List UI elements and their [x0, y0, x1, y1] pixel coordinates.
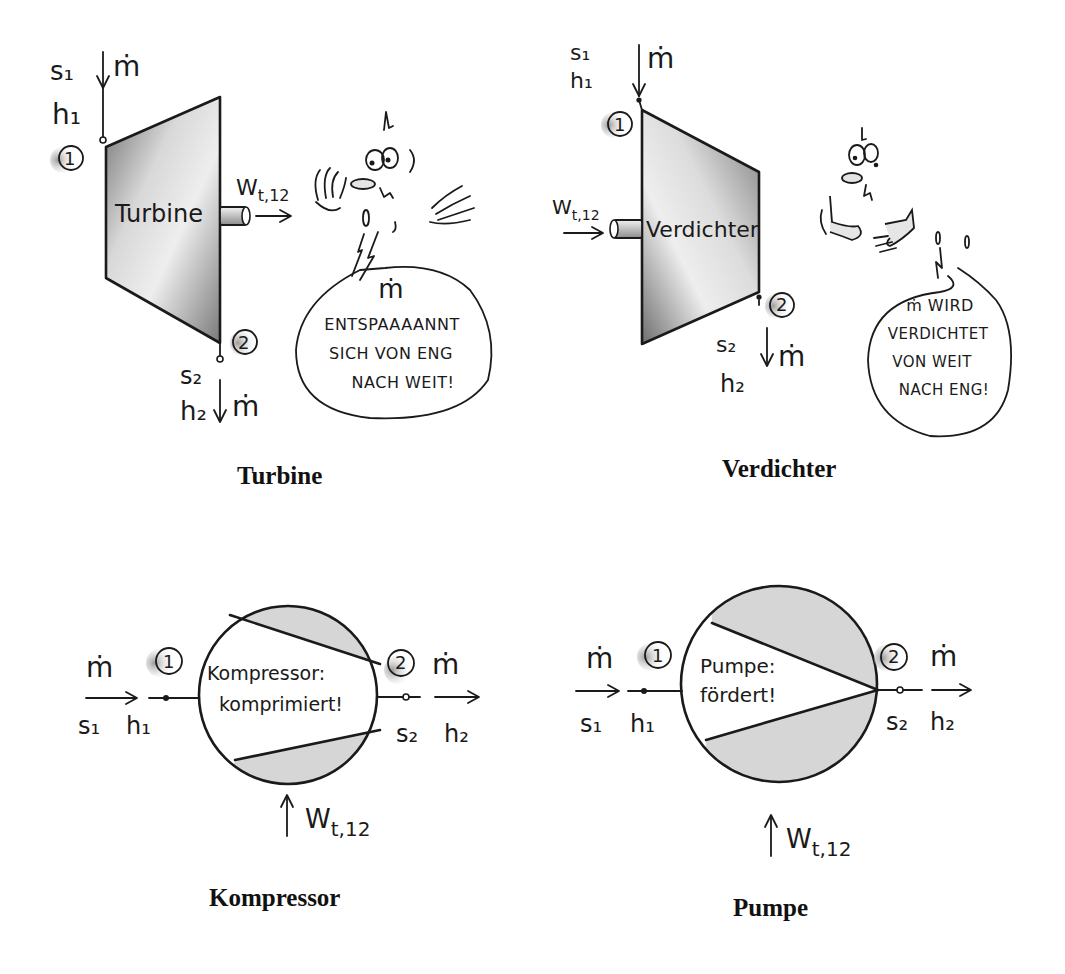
pumpe-inlet-enthalpy: h₁ — [630, 710, 655, 738]
verdichter-inlet-enthalpy: h₁ — [570, 68, 593, 93]
turbine-inlet-mass-flow: ṁ — [113, 50, 140, 83]
turbine-outlet-enthalpy: h₂ — [180, 396, 207, 426]
verdichter-inlet-entropy: s₁ — [570, 40, 590, 65]
verdichter-state-1-label: 1 — [614, 114, 625, 135]
turbine-outlet-arrow — [214, 343, 226, 422]
turbine-inlet-arrow — [97, 52, 109, 143]
kompressor-body-label-line-1: Kompressor: — [207, 662, 325, 684]
kompressor-outlet-entropy: s₂ — [396, 720, 418, 748]
kompressor-outlet-mass-flow: ṁ — [432, 648, 459, 681]
pumpe-caption: Pumpe — [733, 894, 808, 922]
verdichter-inlet-arrow — [633, 45, 645, 110]
kompressor-inlet-enthalpy: h₁ — [126, 712, 151, 740]
verdichter-caption: Verdichter — [722, 455, 836, 483]
verdichter-panel: s₁ h₁ ṁ 1 2 s₂ h₂ ṁ Verdichter Wt,12 ṁ W… — [530, 0, 1065, 500]
turbine-body-label: Turbine — [114, 200, 203, 228]
kompressor-outlet-arrow — [377, 691, 479, 703]
pumpe-outlet-mass-flow: ṁ — [930, 640, 957, 673]
pumpe-state-2-label: 2 — [888, 646, 899, 667]
verdichter-diagram: s₁ h₁ ṁ 1 2 s₂ h₂ ṁ Verdichter Wt,12 ṁ W… — [530, 0, 1065, 500]
kompressor-inlet-mass-flow: ṁ — [86, 651, 113, 684]
turbine-outlet-mass-flow: ṁ — [232, 390, 259, 423]
pumpe-state-1-label: 1 — [652, 645, 663, 666]
verdichter-inlet-mass-flow: ṁ — [647, 42, 674, 75]
turbine-cartoon-figure — [315, 112, 474, 280]
pumpe-inlet-mass-flow: ṁ — [586, 642, 613, 675]
pumpe-work-label: Wt,12 — [786, 824, 851, 861]
verdichter-outlet-entropy: s₂ — [716, 332, 736, 357]
verdichter-body-label: Verdichter — [646, 217, 760, 242]
verdichter-bubble-line-2: VERDICHTET — [888, 325, 989, 343]
kompressor-panel: ṁ 1 s₁ h₁ 2 ṁ s₂ h₂ Kompressor: komprimi… — [0, 560, 530, 974]
turbine-bubble-line-2: ENTSPAAAANNT — [324, 315, 459, 334]
verdichter-work-label: Wt,12 — [552, 195, 600, 223]
verdichter-state-2-label: 2 — [776, 294, 787, 315]
verdichter-cartoon-figure — [821, 128, 969, 278]
verdichter-bubble-line-4: NACH ENG! — [899, 381, 990, 399]
kompressor-inlet-entropy: s₁ — [78, 712, 100, 740]
kompressor-inlet-arrow — [86, 692, 199, 704]
kompressor-caption: Kompressor — [209, 884, 340, 912]
turbine-outlet-entropy: s₂ — [180, 362, 202, 390]
verdichter-bubble-line-1: ṁ WIRD — [906, 296, 974, 315]
turbine-panel: s₁ h₁ ṁ 1 2 s₂ h₂ ṁ Turbine Wt,12 ṁ ENTS… — [0, 0, 530, 500]
pumpe-inlet-entropy: s₁ — [580, 710, 602, 738]
turbine-inlet-entropy: s₁ — [50, 56, 74, 86]
kompressor-state-2-label: 2 — [395, 652, 406, 673]
kompressor-outlet-enthalpy: h₂ — [444, 720, 469, 748]
turbine-work-label: Wt,12 — [236, 175, 289, 205]
pumpe-outlet-entropy: s₂ — [886, 708, 908, 736]
turbine-caption: Turbine — [237, 462, 322, 490]
turbine-inlet-enthalpy: h₁ — [52, 98, 81, 131]
turbine-state-1-label: 1 — [64, 148, 75, 169]
pumpe-outlet-enthalpy: h₂ — [930, 708, 955, 736]
verdichter-bubble-line-3: VON WEIT — [892, 353, 972, 371]
pumpe-inlet-arrow — [576, 685, 682, 697]
pumpe-body-label-line-2: fördert! — [700, 683, 776, 707]
pumpe-body-label-line-1: Pumpe: — [700, 654, 776, 678]
turbine-bubble-line-3: SICH VON ENG — [329, 344, 453, 363]
kompressor-work-arrow — [281, 795, 293, 836]
turbine-bubble-line-4: NACH WEIT! — [352, 373, 455, 392]
kompressor-work-label: Wt,12 — [305, 804, 370, 841]
turbine-diagram: s₁ h₁ ṁ 1 2 s₂ h₂ ṁ Turbine Wt,12 ṁ ENTS… — [0, 0, 530, 500]
verdichter-outlet-enthalpy: h₂ — [720, 370, 745, 398]
verdichter-outlet-mass-flow: ṁ — [778, 340, 805, 373]
pumpe-outlet-arrow — [878, 684, 971, 696]
pumpe-work-arrow — [765, 815, 777, 856]
turbine-state-2-label: 2 — [238, 332, 249, 353]
pumpe-panel: ṁ 1 s₁ h₁ 2 ṁ s₂ h₂ Pumpe: fördert! Wt,1… — [530, 560, 1065, 974]
turbine-bubble-line-1: ṁ — [378, 274, 403, 304]
kompressor-state-1-label: 1 — [163, 651, 174, 672]
kompressor-body-label-line-2: komprimiert! — [219, 693, 343, 715]
turbine-shaft — [220, 207, 291, 225]
